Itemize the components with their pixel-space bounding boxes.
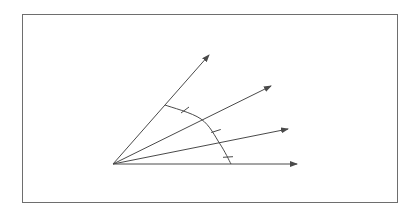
angle-arc bbox=[165, 105, 231, 164]
angle-trisection-diagram bbox=[0, 0, 419, 217]
tick-marks-group bbox=[181, 107, 233, 157]
tick-mark-2 bbox=[211, 129, 221, 132]
tick-mark-3 bbox=[223, 157, 233, 158]
ray-2 bbox=[113, 86, 271, 164]
rays-group bbox=[113, 55, 297, 164]
